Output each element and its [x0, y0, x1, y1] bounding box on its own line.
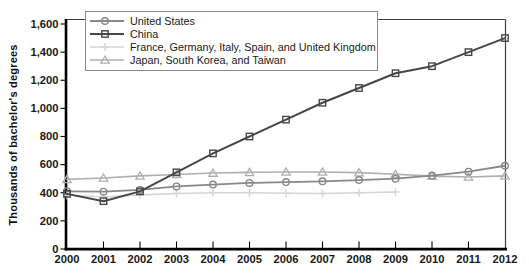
plus-marker [246, 189, 254, 197]
x-tick-label: 2000 [55, 253, 80, 265]
x-tick-label: 2007 [310, 253, 335, 265]
plus-marker [355, 189, 363, 197]
legend-item-united-states: United States [90, 14, 373, 27]
y-tick-label: 1,200 [31, 74, 59, 86]
y-tick-label: 200 [40, 215, 59, 227]
legend-label-europe: France, Germany, Italy, Spain, and Unite… [130, 41, 376, 53]
legend-item-europe: France, Germany, Italy, Spain, and Unite… [90, 40, 373, 53]
series-line [67, 192, 396, 197]
legend-marker-square-icon [90, 28, 124, 40]
plus-marker [319, 189, 327, 197]
x-tick-label: 2004 [201, 253, 227, 265]
legend-marker-circle-icon [90, 15, 124, 27]
x-tick-label: 2012 [493, 253, 518, 265]
legend-label-asia: Japan, South Korea, and Taiwan [130, 54, 286, 66]
plus-marker [173, 189, 181, 197]
legend: United States China France, Germany, Ita… [85, 11, 378, 71]
x-tick-label: 2010 [420, 253, 445, 265]
x-tick-label: 2008 [347, 253, 372, 265]
plus-marker [282, 189, 290, 197]
plus-marker [209, 189, 217, 197]
y-axis-ticks: 02004006008001,0001,2001,4001,600 [31, 18, 67, 255]
y-tick-label: 800 [40, 130, 59, 142]
y-tick-label: 1,600 [31, 18, 59, 30]
plus-marker [101, 43, 109, 51]
legend-label-united-states: United States [130, 15, 195, 27]
x-tick-label: 2009 [383, 253, 408, 265]
plus-marker [392, 188, 400, 196]
y-tick-label: 400 [40, 187, 59, 199]
x-tick-label: 2011 [456, 253, 480, 265]
y-axis-title: Thousands of bachelor's degrees [7, 44, 19, 225]
legend-marker-triangle-icon [90, 54, 124, 66]
x-tick-label: 2002 [128, 253, 153, 265]
x-axis-ticks: 2000200120022003200420052006200720082009… [55, 242, 518, 265]
y-tick-label: 1,400 [31, 46, 59, 58]
y-tick-label: 600 [40, 158, 59, 170]
degrees-line-chart-figure: 02004006008001,0001,2001,4001,6002000200… [0, 0, 529, 277]
x-tick-label: 2005 [237, 253, 262, 265]
x-tick-label: 2003 [164, 253, 189, 265]
legend-marker-plus-icon [90, 41, 124, 53]
x-tick-label: 2001 [91, 253, 116, 265]
x-tick-label: 2006 [274, 253, 299, 265]
legend-item-asia: Japan, South Korea, and Taiwan [90, 54, 373, 67]
legend-label-china: China [130, 28, 158, 40]
y-tick-label: 1,000 [31, 102, 59, 114]
legend-item-china: China [90, 27, 373, 40]
